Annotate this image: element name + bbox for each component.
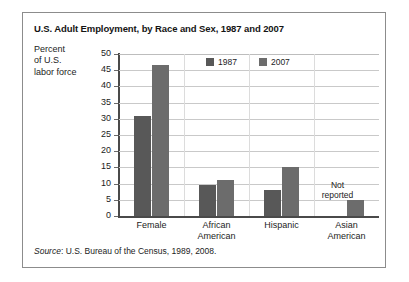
y-axis-tick-35: 35	[85, 97, 111, 107]
y-axis-tick-5: 5	[85, 194, 111, 204]
y-axis-tick-mark-50	[114, 54, 118, 55]
source-note: Source: U.S. Bureau of the Census, 1989,…	[34, 246, 216, 256]
source-text: : U.S. Bureau of the Census, 1989, 2008.	[61, 246, 216, 256]
y-axis-tick-mark-10	[114, 184, 118, 185]
y-axis-tick-mark-15	[114, 167, 118, 168]
not-reported-line-2: reported	[314, 190, 362, 200]
bar-african-american-1987	[199, 185, 216, 216]
y-axis-tick-20: 20	[85, 145, 111, 155]
source-label: Source	[34, 246, 61, 256]
y-axis-tick-mark-45	[114, 70, 118, 71]
bar-hispanic-2007	[282, 167, 299, 216]
x-axis-label-line-2: American	[177, 231, 257, 242]
y-axis-tick-15: 15	[85, 161, 111, 171]
chart-figure: U.S. Adult Employment, by Race and Sex, …	[22, 12, 386, 268]
x-axis-label-line-1: Asian	[307, 220, 387, 231]
plot-area: Notreported	[119, 54, 379, 216]
y-axis-tick-30: 30	[85, 113, 111, 123]
y-axis-caption-line-1: Percent	[34, 44, 90, 55]
bar-hispanic-1987	[264, 190, 281, 216]
category-separator-2	[249, 54, 250, 216]
category-separator-1	[184, 54, 185, 216]
bar-asian-american-2007	[347, 200, 364, 216]
y-axis-caption-line-2: of U.S.	[34, 55, 90, 66]
y-axis-tick-40: 40	[85, 80, 111, 90]
bar-female-2007	[152, 65, 169, 216]
y-axis-tick-mark-35	[114, 103, 118, 104]
y-axis-tick-mark-40	[114, 86, 118, 87]
y-axis-tick-0: 0	[85, 210, 111, 220]
y-axis-tick-mark-20	[114, 151, 118, 152]
y-axis-tick-mark-30	[114, 119, 118, 120]
x-axis-line	[118, 216, 379, 218]
y-axis-caption: Percent of U.S. labor force	[34, 44, 90, 78]
x-axis-label-asian-american: AsianAmerican	[307, 220, 387, 242]
y-axis-tick-25: 25	[85, 129, 111, 139]
not-reported-line-1: Not	[314, 180, 362, 190]
y-axis-caption-line-3: labor force	[34, 67, 90, 78]
bar-african-american-2007	[217, 180, 234, 216]
y-axis-tick-mark-0	[114, 216, 118, 217]
y-axis-tick-mark-25	[114, 135, 118, 136]
not-reported-annotation: Notreported	[314, 180, 362, 200]
bar-female-1987	[134, 116, 151, 216]
y-axis-tick-10: 10	[85, 178, 111, 188]
y-axis-tick-mark-5	[114, 200, 118, 201]
y-axis-tick-45: 45	[85, 64, 111, 74]
page-title: U.S. Adult Employment, by Race and Sex, …	[34, 23, 284, 34]
x-axis-label-line-2: American	[307, 231, 387, 242]
y-axis-tick-50: 50	[85, 48, 111, 58]
